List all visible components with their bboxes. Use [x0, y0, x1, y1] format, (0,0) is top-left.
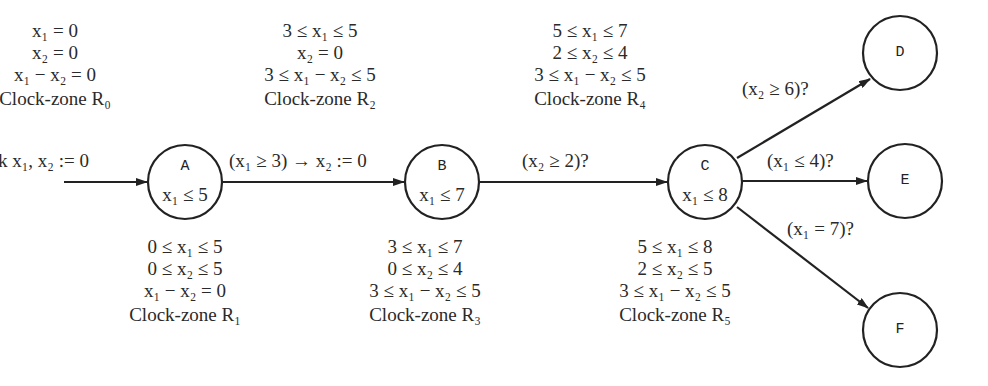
- initial-edge-label: k x₁, x₂ := 0: [0, 150, 89, 172]
- zone-R4-title: Clock-zone R₄: [500, 88, 680, 110]
- zone-R1-line-1: 0 ≤ x₁ ≤ 5: [95, 236, 275, 258]
- node-E-name: E: [885, 172, 925, 189]
- edge-A-B-label: (x₁ ≥ 3) → x₂ := 0: [229, 150, 367, 172]
- zone-R1-line-3: x₁ − x₂ = 0: [95, 280, 275, 302]
- zone-R4-line-2: 2 ≤ x₂ ≤ 4: [500, 42, 680, 64]
- zone-R2-line-2: x₂ = 0: [230, 42, 410, 64]
- zone-R2-line-3: 3 ≤ x₁ − x₂ ≤ 5: [230, 64, 410, 86]
- node-C-circle: [668, 145, 742, 219]
- zone-R5-line-1: 5 ≤ x₁ ≤ 8: [585, 236, 765, 258]
- node-A-invariant: x₁ ≤ 5: [145, 184, 225, 206]
- clock-zone-R0: x₁ = 0 x₂ = 0 x₁ − x₂ = 0 Clock-zone R₀: [0, 20, 130, 110]
- zone-R5-line-2: 2 ≤ x₂ ≤ 5: [585, 258, 765, 280]
- node-C-name: C: [685, 158, 725, 175]
- edge-B-C-label: (x₂ ≥ 2)?: [522, 150, 589, 172]
- zone-R0-line-3: x₁ − x₂ = 0: [0, 64, 130, 86]
- zone-R2-line-1: 3 ≤ x₁ ≤ 5: [230, 20, 410, 42]
- clock-zone-R2: 3 ≤ x₁ ≤ 5 x₂ = 0 3 ≤ x₁ − x₂ ≤ 5 Clock-…: [230, 20, 410, 110]
- node-B-circle: [405, 145, 479, 219]
- zone-R1-title: Clock-zone R₁: [95, 304, 275, 326]
- zone-R3-line-1: 3 ≤ x₁ ≤ 7: [335, 236, 515, 258]
- clock-zone-R3: 3 ≤ x₁ ≤ 7 0 ≤ x₂ ≤ 4 3 ≤ x₁ − x₂ ≤ 5 Cl…: [335, 236, 515, 326]
- node-A-name: A: [165, 158, 205, 175]
- node-C-invariant: x₁ ≤ 8: [665, 184, 745, 206]
- node-B-name: B: [422, 158, 462, 175]
- zone-R5-line-3: 3 ≤ x₁ − x₂ ≤ 5: [585, 280, 765, 302]
- zone-R2-title: Clock-zone R₂: [230, 88, 410, 110]
- zone-R0-line-1: x₁ = 0: [0, 20, 130, 42]
- clock-zone-R5: 5 ≤ x₁ ≤ 8 2 ≤ x₂ ≤ 5 3 ≤ x₁ − x₂ ≤ 5 Cl…: [585, 236, 765, 326]
- zone-R0-title: Clock-zone R₀: [0, 88, 130, 110]
- zone-R1-line-2: 0 ≤ x₂ ≤ 5: [95, 258, 275, 280]
- node-D-name: D: [880, 44, 920, 61]
- zone-R3-title: Clock-zone R₃: [335, 304, 515, 326]
- clock-zone-R4: 5 ≤ x₁ ≤ 7 2 ≤ x₂ ≤ 4 3 ≤ x₁ − x₂ ≤ 5 Cl…: [500, 20, 680, 110]
- zone-R0-line-2: x₂ = 0: [0, 42, 130, 64]
- clock-zone-R1: 0 ≤ x₁ ≤ 5 0 ≤ x₂ ≤ 5 x₁ − x₂ = 0 Clock-…: [95, 236, 275, 326]
- edge-C-F-label: (x₁ = 7)?: [787, 218, 854, 240]
- node-B-invariant: x₁ ≤ 7: [402, 184, 482, 206]
- edge-C-E-label: (x₁ ≤ 4)?: [767, 150, 834, 172]
- zone-R5-title: Clock-zone R₅: [585, 304, 765, 326]
- edge-C-D-label: (x₂ ≥ 6)?: [742, 78, 809, 100]
- node-F-name: F: [880, 321, 920, 338]
- zone-R4-line-1: 5 ≤ x₁ ≤ 7: [500, 20, 680, 42]
- node-A-circle: [148, 145, 222, 219]
- zone-R4-line-3: 3 ≤ x₁ − x₂ ≤ 5: [500, 64, 680, 86]
- zone-R3-line-3: 3 ≤ x₁ − x₂ ≤ 5: [335, 280, 515, 302]
- zone-R3-line-2: 0 ≤ x₂ ≤ 4: [335, 258, 515, 280]
